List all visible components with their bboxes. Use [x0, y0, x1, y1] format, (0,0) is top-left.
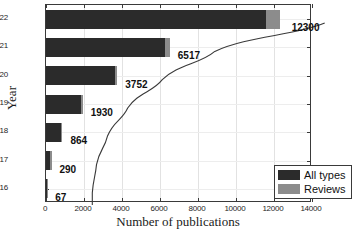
bar-segment-reviews: [115, 66, 118, 85]
x-tick-mark: [122, 198, 123, 202]
y-tick-mark: [307, 161, 311, 162]
x-tick-mark: [46, 198, 47, 202]
value-label-2018: 864: [70, 135, 87, 146]
bar-2018: [46, 123, 62, 142]
bar-2020: [46, 66, 117, 85]
y-tick-label: 2018: [0, 126, 8, 135]
y-tick-label: 2017: [0, 155, 8, 164]
gridline-horizontal: [46, 161, 310, 162]
bar-segment-reviews: [165, 38, 170, 57]
y-tick-mark: [307, 132, 311, 133]
value-label-2022: 12300: [292, 22, 320, 33]
legend-item-reviews: Reviews: [278, 182, 348, 196]
bar-segment-all-types: [46, 38, 165, 57]
bar-2017: [46, 151, 52, 170]
value-label-2016: 67: [55, 192, 66, 203]
value-label-2020: 3752: [125, 79, 147, 90]
bar-2019: [46, 95, 83, 114]
y-tick-label: 2020: [0, 70, 8, 79]
x-tick-mark: [236, 4, 237, 8]
x-tick-mark: [274, 4, 275, 8]
value-label-2017: 290: [60, 164, 77, 175]
gridline-vertical: [160, 5, 161, 201]
y-tick-label: 2016: [0, 183, 8, 192]
y-tick-mark: [307, 47, 311, 48]
bar-2022: [46, 10, 280, 29]
x-tick-mark: [198, 4, 199, 8]
x-tick-mark: [160, 4, 161, 8]
y-tick-mark: [307, 19, 311, 20]
bar-segment-all-types: [46, 66, 115, 85]
legend-item-all-types: All types: [278, 168, 348, 182]
x-tick-mark: [160, 198, 161, 202]
bar-segment-reviews: [81, 95, 82, 114]
bar-segment-reviews: [266, 10, 279, 29]
y-tick-label: 2022: [0, 13, 8, 22]
bar-segment-reviews: [61, 123, 62, 142]
y-tick-label: 2021: [0, 41, 8, 50]
value-label-2021: 6517: [178, 50, 200, 61]
y-tick-label: 2019: [0, 98, 8, 107]
bar-2021: [46, 38, 170, 57]
gridline-vertical: [198, 5, 199, 201]
bar-segment-all-types: [46, 123, 61, 142]
x-tick-mark: [236, 198, 237, 202]
plot-area: 1230065173752193086429067 All types Revi…: [45, 4, 311, 202]
legend-swatch-reviews: [278, 184, 300, 194]
bar-segment-reviews: [50, 151, 51, 170]
gridline-horizontal: [46, 189, 310, 190]
x-tick-mark: [46, 4, 47, 8]
x-tick-label: 14000: [288, 204, 334, 213]
x-tick-mark: [122, 4, 123, 8]
y-tick-mark: [307, 76, 311, 77]
bar-segment-all-types: [46, 95, 81, 114]
gridline-vertical: [122, 5, 123, 201]
gridline-horizontal: [46, 104, 310, 105]
x-tick-mark: [198, 198, 199, 202]
gridline-vertical: [84, 5, 85, 201]
x-tick-mark: [312, 4, 313, 8]
bar-2016: [46, 179, 47, 198]
legend: All types Reviews: [274, 165, 352, 199]
x-tick-mark: [84, 198, 85, 202]
bar-segment-all-types: [46, 10, 266, 29]
legend-swatch-all-types: [278, 170, 300, 180]
legend-label-reviews: Reviews: [304, 184, 346, 195]
x-axis-title: Number of publications: [45, 214, 311, 230]
y-tick-mark: [307, 104, 311, 105]
x-tick-mark: [84, 4, 85, 8]
value-label-2019: 1930: [91, 107, 113, 118]
bar-segment-reviews: [47, 179, 48, 198]
gridline-horizontal: [46, 132, 310, 133]
gridline-vertical: [236, 5, 237, 201]
legend-label-all-types: All types: [304, 170, 346, 181]
